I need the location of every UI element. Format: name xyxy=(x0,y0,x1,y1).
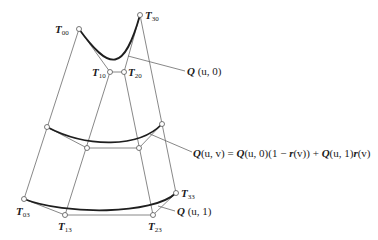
curve-q-u0 xyxy=(79,15,140,60)
label-T13: T13 xyxy=(58,220,72,234)
label-T10: T10 xyxy=(92,66,106,80)
point-T20 xyxy=(122,70,127,75)
ruling-line-1 xyxy=(65,72,110,215)
ruling-line-2 xyxy=(124,72,153,215)
point-T00 xyxy=(77,27,82,32)
point-T13 xyxy=(63,213,68,218)
point-T30 xyxy=(138,13,143,18)
label-q-u1: Q (u, 1) xyxy=(177,205,212,218)
ruling-lines xyxy=(24,15,176,215)
point-M2 xyxy=(137,146,142,151)
point-T33 xyxy=(174,191,179,196)
label-T03: T03 xyxy=(16,205,30,219)
label-T23: T23 xyxy=(148,220,162,234)
label-T20: T20 xyxy=(128,66,142,80)
curve-q-uv xyxy=(47,124,162,142)
label-q-u0: Q (u, 0) xyxy=(187,65,222,78)
curve-labels: Q (u, 0) Q(u, v) = Q(u, 0)(1 − r(v)) + Q… xyxy=(177,65,371,218)
point-T03 xyxy=(22,197,27,202)
ruling-line-0 xyxy=(24,29,79,199)
leader-q-uv xyxy=(150,134,192,152)
label-T33: T33 xyxy=(181,187,195,201)
point-T23 xyxy=(151,213,156,218)
point-M0 xyxy=(45,125,50,130)
label-T00: T00 xyxy=(55,23,69,37)
point-M1 xyxy=(85,146,90,151)
ruling-line-3 xyxy=(140,15,176,193)
leader-q-u1 xyxy=(158,206,175,211)
leader-q-u0 xyxy=(128,56,185,71)
label-q-uv-equation: Q(u, v) = Q(u, 0)(1 − r(v)) + Q(u, 1)r(v… xyxy=(193,147,371,160)
diagram-canvas: T00 T10 T20 T30 T03 T13 T23 T33 Q (u, 0)… xyxy=(0,0,378,240)
label-T30: T30 xyxy=(145,9,159,23)
control-point-markers xyxy=(22,13,179,218)
bezier-curves xyxy=(24,15,176,210)
point-M3 xyxy=(160,122,165,127)
point-T10 xyxy=(108,70,113,75)
control-polygons xyxy=(24,15,176,215)
